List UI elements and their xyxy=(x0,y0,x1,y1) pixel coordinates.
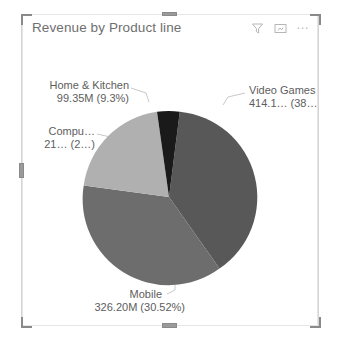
pie-chart-svg: Home & Kitchen 99.35M (9.3%) Compu… 21… … xyxy=(23,45,317,327)
label-mobile-value: 326.20M (30.52%) xyxy=(95,301,186,313)
focus-mode-icon[interactable] xyxy=(273,21,287,35)
resize-handle-bottom-left[interactable] xyxy=(21,317,32,328)
label-computers-name: Compu… xyxy=(49,125,95,137)
resize-handle-top-right[interactable] xyxy=(310,14,321,25)
resize-handle-top-middle[interactable] xyxy=(162,12,177,16)
label-home-kitchen-name: Home & Kitchen xyxy=(50,79,129,91)
label-home-kitchen-value: 99.35M (9.3%) xyxy=(57,92,129,104)
label-mobile-name: Mobile xyxy=(130,288,162,300)
resize-handle-left-middle[interactable] xyxy=(19,163,24,178)
pie-slices[interactable] xyxy=(83,111,258,285)
resize-handle-top-left[interactable] xyxy=(21,14,32,25)
visual-card[interactable]: Revenue by Product line … xyxy=(22,14,318,326)
label-video-games-value: 414.1… (38…) xyxy=(249,97,317,109)
powerbi-visual-container[interactable]: Revenue by Product line … xyxy=(0,0,340,342)
pie-chart-plot[interactable]: Home & Kitchen 99.35M (9.3%) Compu… 21… … xyxy=(23,45,317,327)
visual-header: Revenue by Product line … xyxy=(23,15,317,45)
pie-slice-home-kitchen[interactable] xyxy=(84,112,169,197)
selection-frame-right xyxy=(318,14,319,326)
resize-handle-bottom-right[interactable] xyxy=(310,317,321,328)
more-options-glyph: … xyxy=(296,21,310,35)
label-video-games-name: Video Games xyxy=(249,84,316,96)
resize-handle-bottom-middle[interactable] xyxy=(162,323,177,328)
page-title: Revenue by Product line xyxy=(32,20,181,35)
filter-icon[interactable] xyxy=(250,21,264,35)
visual-header-actions: … xyxy=(250,21,310,35)
more-options-icon[interactable]: … xyxy=(296,21,310,35)
label-computers-value: 21… (2…) xyxy=(44,138,95,150)
